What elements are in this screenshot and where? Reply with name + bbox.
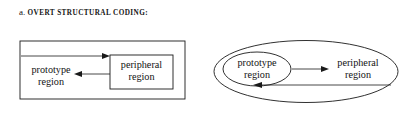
panel-a-peripheral-label-line1: peripheral [121, 59, 162, 70]
panel-a-arrow-to-peripheral-head [102, 53, 110, 59]
panel-a-prototype-label-line2: region [38, 76, 64, 87]
panel-b-arrow-to-peripheral-head [321, 66, 329, 72]
panel-b-prototype-label-line2: region [244, 69, 270, 80]
panel-b-peripheral-label-line2: region [345, 69, 371, 80]
panel-a-peripheral-label-line2: region [128, 71, 154, 82]
panel-b-feedback-arrow-head [253, 82, 262, 88]
panel-a-prototype-label-line1: prototype [31, 64, 71, 75]
panel-a-drawing: prototype region peripheral region [0, 0, 206, 116]
panel-b-peripheral-label-line1: peripheral [337, 57, 378, 68]
panel-a-arrow-to-prototype-head [74, 71, 82, 77]
panel-b: b. BEHAVIORAL POTENTIAL: prototype regio… [206, 0, 413, 116]
figure-two-panel-diagram: a. OVERT STRUCTURAL CODING: prototype re… [0, 0, 413, 116]
panel-b-prototype-label-line1: prototype [237, 57, 277, 68]
panel-a: a. OVERT STRUCTURAL CODING: prototype re… [0, 0, 206, 116]
panel-b-drawing: prototype region peripheral region [206, 0, 413, 116]
